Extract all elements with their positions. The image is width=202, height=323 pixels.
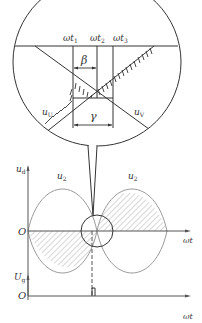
ug-label: Ug	[14, 272, 26, 284]
gamma-label: γ	[90, 110, 97, 123]
wt1-label: ωt1	[63, 33, 78, 44]
origin-label: O	[18, 226, 26, 237]
uV-label: uV	[134, 107, 145, 118]
hatched-area-right	[97, 193, 167, 231]
pulse-plot: Ug O ωt	[14, 272, 194, 321]
magnifier-pointer	[88, 146, 97, 216]
hatched-area-left	[28, 231, 97, 267]
u2-right-label: u2	[128, 171, 138, 182]
uU-line	[45, 46, 154, 133]
gate-pulse	[92, 288, 95, 296]
magnified-view: ωt1 ωt2 ωt3 β γ uU uV	[13, 0, 181, 216]
uU-label: uU	[42, 107, 53, 118]
pulse-origin-label: O	[18, 290, 26, 301]
commutation-diagram: ωt1 ωt2 ωt3 β γ uU uV ud u2 u2 O ωt	[0, 0, 202, 323]
ud-label: ud	[16, 164, 26, 175]
wt3-label: ωt3	[113, 33, 128, 44]
wt2-label: ωt2	[90, 33, 105, 44]
pulse-wt-axis-label: ωt	[183, 312, 194, 321]
wt-axis-label: ωt	[183, 236, 194, 245]
beta-label: β	[80, 54, 87, 67]
waveform-plot: ud u2 u2 O ωt	[16, 164, 194, 300]
u2-left-label: u2	[57, 171, 67, 182]
